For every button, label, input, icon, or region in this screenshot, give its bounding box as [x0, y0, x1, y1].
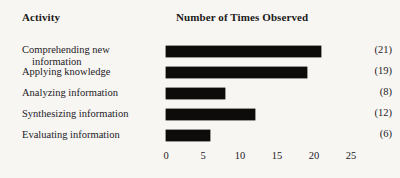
- x-axis-tick: 10: [235, 150, 246, 161]
- bar-value-label: (8): [352, 86, 392, 97]
- bar-value-label: (21): [352, 44, 392, 55]
- bar: [166, 46, 321, 57]
- chart-row: Applying knowledge (19): [0, 65, 400, 85]
- category-label: Analyzing information: [22, 87, 162, 99]
- column-header-measure: Number of Times Observed: [176, 11, 308, 23]
- category-label: Evaluating information: [22, 129, 162, 141]
- chart-row: Analyzing information (8): [0, 86, 400, 106]
- chart-row: Comprehending new information (21): [0, 44, 400, 64]
- bar-value-label: (19): [352, 65, 392, 76]
- x-axis-tick: 25: [346, 150, 357, 161]
- x-axis-tick: 15: [272, 150, 283, 161]
- chart-row: Evaluating information (6): [0, 128, 400, 148]
- bar-chart-figure: Activity Number of Times Observed Compre…: [0, 0, 400, 178]
- x-axis-tick: 20: [309, 150, 320, 161]
- chart-header: Activity Number of Times Observed: [0, 11, 400, 27]
- bar: [166, 109, 255, 120]
- bar-track: [166, 67, 307, 78]
- bar-track: [166, 88, 225, 99]
- bar-value-label: (6): [352, 128, 392, 139]
- bar-track: [166, 130, 210, 141]
- bar-value-label: (12): [352, 107, 392, 118]
- category-label-line1: Comprehending new: [22, 44, 110, 55]
- x-axis: 0 5 10 15 20 25: [0, 150, 400, 166]
- column-header-activity: Activity: [22, 11, 60, 23]
- bar: [166, 88, 225, 99]
- bar-track: [166, 46, 321, 57]
- category-label: Applying knowledge: [22, 66, 162, 78]
- x-axis-tick: 5: [200, 150, 205, 161]
- x-axis-tick: 0: [163, 150, 168, 161]
- bar: [166, 130, 210, 141]
- bar-track: [166, 109, 255, 120]
- category-label: Synthesizing information: [22, 108, 162, 120]
- bar: [166, 67, 307, 78]
- chart-row: Synthesizing information (12): [0, 107, 400, 127]
